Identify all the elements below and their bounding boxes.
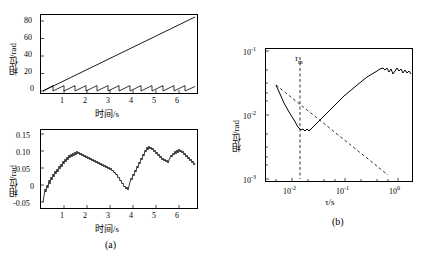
panel-a-top-xtick-4: 4 xyxy=(129,96,133,105)
panel-a-top-xtick-6: 6 xyxy=(175,96,179,105)
panel-b-ytick-1e-1: 10-1 xyxy=(243,46,256,57)
panel-a-bottom-ytick-005: 0.05 xyxy=(16,165,30,174)
panel-b-ylabel: 相位/rad xyxy=(229,95,240,177)
panel-a-top-ytick-80: 80 xyxy=(24,16,32,25)
panel-a-top-ytick-40: 40 xyxy=(24,50,32,59)
panel-a-bottom-xtick-1: 1 xyxy=(60,211,64,220)
panel-a-top-ylabel: 相位/rad xyxy=(6,18,17,100)
panel-b-svg xyxy=(266,49,412,181)
panel-b-xtick-1e0: 100 xyxy=(389,185,400,196)
panel-a-top-xtick-1: 1 xyxy=(60,96,64,105)
panel-b: 相位/rad 10-1 10-2 10-3 xyxy=(215,0,428,265)
panel-a-bottom-xlabel: 时间/s xyxy=(95,222,119,235)
panel-a-bottom-xtick-5: 5 xyxy=(152,211,156,220)
panel-b-xtick-1e-1: 10-1 xyxy=(336,185,349,196)
panel-a-bottom-xtick-6: 6 xyxy=(175,211,179,220)
panel-a-top-xtick-3: 3 xyxy=(106,96,110,105)
panel-a-bottom-plot xyxy=(40,129,198,209)
panel-a-bottom-ytick-015: 0.15 xyxy=(16,131,30,140)
panel-a-bottom-ytick-0: 0 xyxy=(30,182,34,191)
panel-b-caption: (b) xyxy=(332,216,344,227)
panel-a-top-ytick-0: 0 xyxy=(30,84,34,93)
panel-b-tau-m-annotation: τm xyxy=(295,54,303,65)
panel-a-bottom-svg xyxy=(41,130,197,208)
panel-a-bottom-ytick-010: 0.10 xyxy=(16,148,30,157)
panel-b-xlabel: τ/s xyxy=(325,197,335,207)
panel-b-ytick-1e-2: 10-2 xyxy=(243,110,256,121)
panel-a-top-plot xyxy=(40,14,198,94)
panel-a-top-svg xyxy=(41,15,197,93)
panel-a-top-xtick-5: 5 xyxy=(152,96,156,105)
panel-a-top-ytick-20: 20 xyxy=(24,67,32,76)
panel-b-ytick-1e-3: 10-3 xyxy=(243,174,256,185)
panel-a-bottom-xtick-4: 4 xyxy=(129,211,133,220)
panel-a: 相位/rad 80 60 40 20 0 xyxy=(0,0,215,265)
panel-a-top-ytick-60: 60 xyxy=(24,33,32,42)
panel-a-bottom-xtick-2: 2 xyxy=(83,211,87,220)
panel-a-bottom-ytick-neg005: -0.05 xyxy=(13,199,30,208)
panel-b-plot xyxy=(265,48,413,182)
panel-b-xtick-1e-2: 10-2 xyxy=(283,185,296,196)
panel-a-caption: (a) xyxy=(105,239,116,250)
panel-a-top-xlabel: 时间/s xyxy=(95,107,119,120)
panel-a-bottom-xtick-3: 3 xyxy=(106,211,110,220)
panel-a-top-xtick-2: 2 xyxy=(83,96,87,105)
